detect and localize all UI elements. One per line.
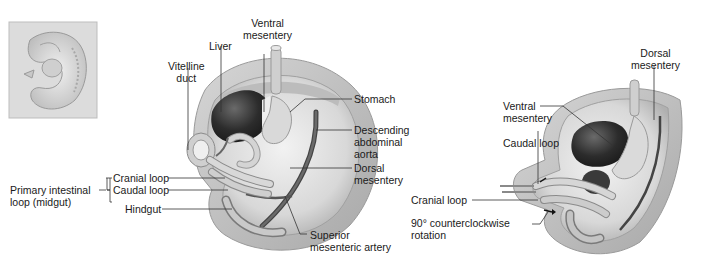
label-superior-mesenteric-artery: Superior mesenteric artery bbox=[310, 229, 391, 253]
label-line: mesentery bbox=[243, 29, 292, 41]
label-dorsal-mesentery: Dorsal mesentery bbox=[354, 162, 403, 186]
label-line: duct bbox=[168, 72, 205, 84]
label-line: mesentery bbox=[631, 59, 680, 71]
label-line: loop (midgut) bbox=[10, 196, 91, 208]
label-line: Primary intestinal bbox=[10, 184, 91, 196]
label-vitelline-duct: Vitelline duct bbox=[168, 60, 205, 84]
label-line: Dorsal bbox=[631, 47, 680, 59]
label-line: Ventral bbox=[503, 100, 552, 112]
label-line: Superior bbox=[310, 229, 391, 241]
label-line: 90° counterclockwise bbox=[411, 217, 510, 229]
label-line: Descending bbox=[354, 124, 409, 136]
label-stomach: Stomach bbox=[354, 93, 395, 105]
label-hindgut: Hindgut bbox=[125, 203, 161, 215]
label-primary-intestinal-loop: Primary intestinal loop (midgut) bbox=[10, 184, 91, 208]
embryo-inset-illustration bbox=[9, 22, 97, 118]
label-rotation: 90° counterclockwise rotation bbox=[411, 217, 510, 241]
label-ventral-mesentery: Ventral mesentery bbox=[243, 17, 292, 41]
label-caudal-loop-right: Caudal loop bbox=[503, 137, 559, 149]
diagram-stage: Ventral mesentery Liver Vitelline duct S… bbox=[0, 0, 701, 260]
label-cranial-loop-right: Cranial loop bbox=[411, 194, 467, 206]
label-line: abdominal bbox=[354, 136, 409, 148]
label-dorsal-mesentery-right: Dorsal mesentery bbox=[631, 47, 680, 71]
left-midgut-illustration bbox=[187, 46, 378, 251]
label-line: Ventral bbox=[243, 17, 292, 29]
label-caudal-loop: Caudal loop bbox=[113, 184, 169, 196]
label-line: mesentery bbox=[503, 112, 552, 124]
label-line: rotation bbox=[411, 229, 510, 241]
label-descending-abdominal-aorta: Descending abdominal aorta bbox=[354, 124, 409, 160]
diagram-artwork bbox=[0, 0, 701, 260]
label-line: Dorsal bbox=[354, 162, 403, 174]
label-line: mesentery bbox=[354, 174, 403, 186]
label-line: mesenteric artery bbox=[310, 241, 391, 253]
label-line: Vitelline bbox=[168, 60, 205, 72]
label-liver: Liver bbox=[209, 40, 232, 52]
label-ventral-mesentery-right: Ventral mesentery bbox=[503, 100, 552, 124]
label-line: aorta bbox=[354, 148, 409, 160]
label-cranial-loop: Cranial loop bbox=[113, 172, 169, 184]
